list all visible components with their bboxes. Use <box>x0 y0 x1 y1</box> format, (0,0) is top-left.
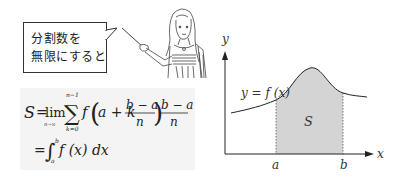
tick-b: b <box>340 158 348 172</box>
y-axis-arrow-icon <box>222 51 228 60</box>
curve-label: y = f (x) <box>240 86 290 100</box>
x-axis-label: x <box>377 147 384 161</box>
tick-a: a <box>272 158 279 172</box>
y-axis-label: y <box>221 32 229 46</box>
area-under-curve-graph: y x y = f (x) S a b <box>0 0 408 181</box>
area-label: S <box>304 114 313 129</box>
x-axis-arrow-icon <box>365 151 374 157</box>
shaded-area-S <box>276 68 343 154</box>
